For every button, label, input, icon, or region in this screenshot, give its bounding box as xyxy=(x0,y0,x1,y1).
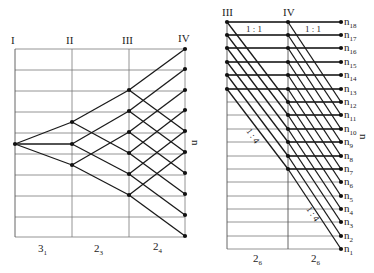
speed-node xyxy=(339,113,343,117)
right-axis-label-n: n xyxy=(358,134,370,140)
transmission-line xyxy=(129,195,185,236)
left-column-label-I: I xyxy=(11,34,15,46)
left-group-label-2: 23 xyxy=(94,242,104,257)
speed-node xyxy=(225,20,229,24)
speed-node xyxy=(286,87,290,91)
speed-node xyxy=(70,163,74,167)
speed-node xyxy=(183,213,187,217)
speed-node xyxy=(127,109,131,113)
right-grid xyxy=(227,22,341,249)
speed-node xyxy=(183,129,187,133)
speed-node xyxy=(225,87,229,91)
speed-node xyxy=(339,154,343,158)
speed-node xyxy=(183,47,187,51)
speed-node xyxy=(339,73,343,77)
right-speed-diagram: n18n17n16n15n14n13n12n11n10n9n8n7n6n5n4n… xyxy=(222,6,370,267)
speed-node xyxy=(339,234,343,238)
speed-node xyxy=(339,33,343,37)
speed-node xyxy=(225,60,229,64)
ratio-label-III-IV: 1 : 1 xyxy=(246,24,262,34)
speed-node xyxy=(225,46,229,50)
speed-node xyxy=(70,120,74,124)
speed-node xyxy=(286,154,290,158)
left-axis-label-n: n xyxy=(190,140,202,146)
speed-node xyxy=(286,127,290,131)
speed-node xyxy=(127,88,131,92)
left-column-label-II: II xyxy=(66,34,74,46)
left-group-label-3: 24 xyxy=(153,240,163,255)
speed-node xyxy=(286,73,290,77)
ratio-label-IV-out-reduction: 1 : 4 xyxy=(304,204,322,223)
speed-node xyxy=(183,108,187,112)
speed-node xyxy=(286,60,290,64)
speed-node xyxy=(339,46,343,50)
speed-node xyxy=(339,220,343,224)
speed-node xyxy=(339,20,343,24)
speed-node xyxy=(286,167,290,171)
speed-node xyxy=(183,192,187,196)
left-speed-nodes xyxy=(13,47,187,238)
speed-node xyxy=(339,127,343,131)
transmission-line xyxy=(72,111,129,144)
right-group-label-1: 26 xyxy=(253,252,263,267)
right-column-label-III: III xyxy=(222,6,233,18)
transmission-line xyxy=(129,174,185,215)
right-transmission-lines xyxy=(227,22,341,249)
ratio-label-IV-out: 1 : 1 xyxy=(305,24,321,34)
speed-node xyxy=(339,60,343,64)
left-column-label-III: III xyxy=(122,34,133,46)
speed-node xyxy=(339,140,343,144)
speed-label-n16: n16 xyxy=(344,41,357,56)
transmission-line xyxy=(129,49,185,90)
speed-node xyxy=(127,193,131,197)
speed-node xyxy=(286,33,290,37)
speed-node xyxy=(286,140,290,144)
speed-node xyxy=(339,167,343,171)
speed-node xyxy=(127,151,131,155)
speed-node xyxy=(183,234,187,238)
left-column-label-IV: IV xyxy=(178,32,190,44)
speed-node xyxy=(339,180,343,184)
speed-node xyxy=(183,150,187,154)
speed-diagram: I II III IV n 31 23 24 n18n17n16n15n14n1… xyxy=(0,0,374,273)
speed-node xyxy=(339,207,343,211)
speed-node xyxy=(339,100,343,104)
speed-node xyxy=(339,87,343,91)
speed-node xyxy=(13,142,17,146)
transmission-line xyxy=(72,90,129,122)
speed-node xyxy=(225,73,229,77)
speed-label-n3: n3 xyxy=(344,215,354,230)
speed-node xyxy=(286,20,290,24)
speed-node xyxy=(339,247,343,251)
transmission-line xyxy=(15,144,72,165)
speed-node xyxy=(183,67,187,71)
speed-node xyxy=(286,46,290,50)
right-column-label-IV: IV xyxy=(283,6,295,18)
speed-node xyxy=(127,172,131,176)
speed-label-n14: n14 xyxy=(344,68,357,83)
speed-node xyxy=(225,33,229,37)
right-speed-labels: n18n17n16n15n14n13n12n11n10n9n8n7n6n5n4n… xyxy=(344,15,357,257)
speed-node xyxy=(183,171,187,175)
speed-node xyxy=(127,130,131,134)
right-group-label-2: 26 xyxy=(311,252,321,267)
transmission-line-1-4 xyxy=(227,75,288,156)
speed-node xyxy=(286,113,290,117)
transmission-line xyxy=(129,69,185,111)
left-transmission-lines xyxy=(15,49,185,236)
speed-node xyxy=(286,100,290,104)
speed-node xyxy=(70,142,74,146)
speed-label-n11: n11 xyxy=(344,108,357,123)
speed-label-n9: n9 xyxy=(344,135,354,150)
speed-label-n1: n1 xyxy=(344,242,354,257)
left-speed-diagram: I II III IV n 31 23 24 xyxy=(11,32,202,257)
speed-label-n6: n6 xyxy=(344,175,354,190)
left-grid xyxy=(15,49,185,237)
left-group-label-1: 31 xyxy=(38,242,48,257)
speed-node xyxy=(183,88,187,92)
speed-node xyxy=(339,194,343,198)
